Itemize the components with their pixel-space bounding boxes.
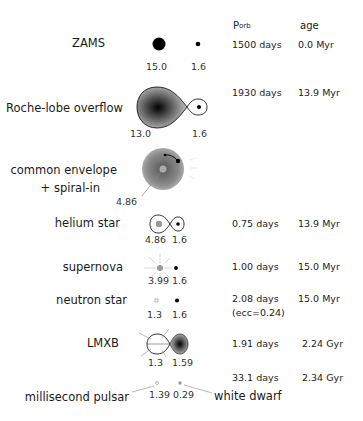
age-value: 0.0 Myr	[298, 40, 334, 50]
mass-label: 1.6	[191, 62, 206, 72]
neutron-star-icon	[155, 298, 179, 302]
mass-label: 13.0	[130, 129, 151, 139]
mass-label: 1.6	[192, 129, 207, 139]
age-value: 2.24 Gyr	[302, 339, 343, 349]
age-value: 13.9 Myr	[298, 219, 340, 229]
stage-label-lmxb: LMXB	[87, 338, 119, 350]
lmxb-icon	[139, 329, 188, 357]
common-envelope-icon	[142, 148, 198, 196]
mass-label: 3.99	[148, 276, 169, 286]
mass-label: 15.0	[146, 62, 167, 72]
mass-label: 1.3	[148, 358, 163, 368]
stage-label-neutron-star: neutron star	[56, 295, 127, 307]
age-value: 2.34 Gyr	[302, 373, 343, 383]
stage-label-ce-line2: + spiral-in	[41, 183, 100, 195]
roche-lobe-icon	[137, 87, 207, 128]
mass-label: 1.6	[172, 310, 187, 320]
eccentricity-note: (ecc=0.24)	[232, 308, 285, 318]
age-value: 13.9 Myr	[298, 88, 340, 98]
stage-label-helium-star: helium star	[55, 218, 120, 230]
age-value: 15.0 Myr	[298, 294, 340, 304]
stage-label-msp: millisecond pulsar	[25, 392, 129, 404]
porb-value: 1.00 days	[232, 262, 279, 272]
mass-label: 4.86	[116, 197, 137, 207]
porb-value: 0.75 days	[232, 219, 279, 229]
stage-label-rlof: Roche-lobe overflow	[6, 103, 123, 115]
porb-header: Porb	[233, 21, 251, 31]
mass-label: 4.86	[145, 235, 166, 245]
stage-label-white-dwarf: white dwarf	[214, 391, 282, 403]
mass-label: 1.59	[172, 358, 193, 368]
age-value: 15.0 Myr	[298, 262, 340, 272]
porb-value: 1.91 days	[232, 339, 279, 349]
stage-label-ce-line1: common envelope	[10, 165, 117, 177]
mass-label: 1.6	[172, 276, 187, 286]
mass-label: 0.29	[173, 390, 194, 400]
mass-label: 1.3	[147, 310, 162, 320]
porb-value: 33.1 days	[232, 373, 279, 383]
helium-star-icon	[150, 215, 184, 233]
stage-label-zams: ZAMS	[72, 38, 105, 50]
porb-value: 2.08 days	[232, 294, 279, 304]
zams-binary-icon	[153, 38, 201, 51]
mass-label: 1.6	[172, 235, 187, 245]
porb-value: 1500 days	[232, 40, 282, 50]
stage-label-supernova: supernova	[63, 262, 123, 274]
msp-wd-icon	[132, 381, 212, 393]
porb-value: 1930 days	[232, 88, 282, 98]
age-header: age	[300, 21, 319, 31]
mass-label: 1.39	[149, 390, 170, 400]
